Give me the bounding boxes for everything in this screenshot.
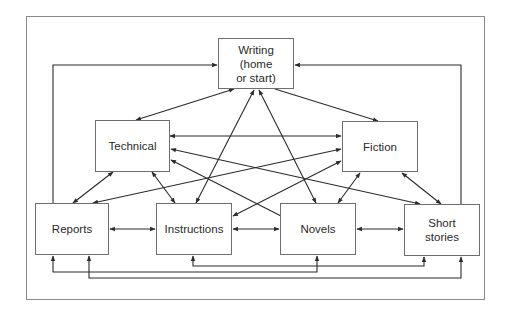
node-novels: Novels	[280, 203, 356, 255]
node-writing: Writing (home or start)	[218, 38, 294, 89]
node-reports: Reports	[35, 203, 109, 255]
edge-instructions-shortstories	[193, 256, 424, 266]
node-writing-label: Writing (home or start)	[236, 43, 276, 85]
node-technical-label: Technical	[109, 139, 157, 153]
node-fiction: Fiction	[342, 121, 418, 172]
edge-writing-novels	[259, 90, 316, 203]
edge-technical-reports	[73, 172, 113, 203]
diagram-canvas: Writing (home or start) Technical Fictio…	[0, 0, 511, 318]
node-technical: Technical	[95, 120, 170, 172]
node-short-stories: Short stories	[404, 204, 480, 256]
edge-fiction-shortstories	[402, 173, 441, 204]
edge-reports-shortstories	[89, 256, 461, 278]
node-reports-label: Reports	[52, 222, 92, 236]
edge-writing-technical	[136, 89, 234, 120]
node-fiction-label: Fiction	[363, 140, 397, 154]
edge-reports-novels	[53, 256, 317, 272]
edge-fiction-novels	[338, 173, 360, 203]
node-instructions-label: Instructions	[165, 222, 224, 236]
node-novels-label: Novels	[300, 222, 335, 236]
edge-writing-fiction	[275, 89, 378, 121]
edge-writing-instructions	[196, 90, 254, 203]
node-instructions: Instructions	[156, 203, 232, 255]
node-short-stories-label: Short stories	[425, 216, 459, 244]
